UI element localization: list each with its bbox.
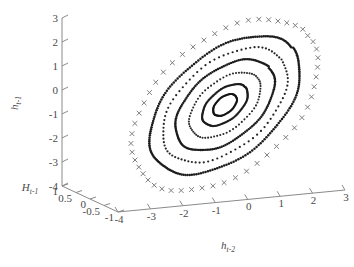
marker-dot — [189, 125, 191, 127]
marker-dot — [164, 92, 167, 95]
x-axis-ticks: -4-3-2-10123 — [114, 185, 349, 225]
marker-dot — [191, 64, 194, 67]
marker-dot — [195, 134, 197, 136]
marker-dot — [239, 38, 242, 41]
marker-dot — [258, 78, 260, 80]
marker-dot — [229, 130, 231, 132]
marker-dot — [222, 43, 225, 46]
marker-dot — [156, 107, 159, 110]
marker-dot — [259, 85, 261, 87]
marker-dot — [221, 165, 224, 168]
marker-dot — [219, 134, 221, 136]
marker-dot — [277, 122, 280, 125]
marker-dot — [220, 44, 223, 47]
marker-dot — [195, 173, 198, 176]
z-axis-label: Ht-1 — [21, 181, 38, 196]
marker-dot — [270, 118, 272, 120]
marker-dot — [184, 159, 186, 161]
marker-dot — [187, 160, 189, 162]
marker-dot — [203, 161, 205, 163]
marker-cross — [137, 165, 141, 169]
marker-dot — [212, 159, 214, 161]
marker-cross — [200, 186, 204, 190]
marker-dot — [191, 174, 194, 177]
marker-dot — [207, 87, 209, 89]
marker-dot — [259, 83, 261, 85]
marker-cross — [235, 21, 239, 25]
marker-dot — [245, 47, 247, 49]
marker-dot — [165, 111, 167, 113]
marker-dot — [188, 174, 191, 177]
marker-dot — [258, 46, 260, 48]
marker-dot — [199, 136, 201, 138]
marker-dot — [256, 134, 258, 136]
phase-portrait-plot: 3210-1-2-3-4ht-110.50-0.5-1Ht-1-4-3-2-10… — [0, 0, 354, 267]
marker-cross — [179, 188, 183, 192]
marker-cross — [213, 32, 217, 36]
marker-dot — [253, 46, 255, 48]
marker-dot — [198, 161, 200, 163]
marker-dot — [209, 61, 211, 63]
marker-dot — [296, 90, 299, 93]
marker-dot — [164, 144, 166, 146]
marker-dot — [234, 95, 236, 97]
marker-dot — [258, 96, 260, 98]
y-tick-label: -2 — [49, 132, 58, 144]
marker-dot — [297, 88, 300, 91]
marker-dot — [169, 85, 172, 88]
marker-cross — [265, 153, 269, 157]
marker-cross — [276, 19, 280, 23]
marker-dot — [190, 112, 192, 114]
marker-dot — [284, 67, 286, 69]
marker-dot — [267, 134, 270, 137]
marker-dot — [222, 133, 224, 135]
z-tick-label: 1 — [53, 185, 59, 197]
marker-dot — [256, 35, 259, 38]
marker-dot — [189, 66, 192, 69]
series-ring-3-dense — [174, 58, 276, 151]
marker-dot — [295, 94, 298, 97]
marker-cross — [170, 61, 174, 65]
marker-dot — [246, 116, 248, 118]
marker-dot — [241, 121, 243, 123]
marker-cross — [316, 56, 320, 60]
marker-dot — [284, 93, 286, 95]
marker-dot — [244, 154, 247, 157]
marker-dot — [204, 54, 207, 57]
marker-dot — [204, 89, 206, 91]
marker-dot — [261, 140, 264, 143]
marker-dot — [230, 151, 232, 153]
marker-dot — [239, 146, 241, 148]
marker-dot — [268, 49, 270, 51]
series-ring-5-dense — [201, 83, 249, 127]
marker-dot — [276, 124, 279, 127]
marker-dot — [274, 126, 277, 129]
x-tick-label: -1 — [212, 204, 221, 216]
marker-dot — [175, 94, 177, 96]
marker-dot — [192, 106, 194, 108]
marker-dot — [255, 75, 257, 77]
marker-dot — [253, 107, 255, 109]
marker-cross — [233, 176, 237, 180]
marker-cross — [222, 181, 226, 185]
marker-dot — [234, 148, 236, 150]
marker-dot — [286, 74, 288, 76]
y-tick-label: 2 — [53, 36, 59, 48]
marker-dot — [282, 116, 285, 119]
marker-dot — [191, 161, 193, 163]
x-tick-label: -3 — [147, 210, 157, 222]
marker-dot — [221, 155, 223, 157]
marker-cross — [191, 45, 195, 49]
marker-dot — [193, 63, 196, 66]
y-tick — [62, 111, 68, 114]
marker-dot — [257, 144, 260, 147]
marker-dot — [232, 72, 234, 74]
y-axis-ticks: 3210-1-2-3-4 — [49, 12, 68, 192]
x-tick-label: 1 — [278, 197, 284, 209]
x-tick-label: -4 — [114, 213, 124, 225]
marker-dot — [216, 135, 218, 137]
marker-dot — [167, 107, 169, 109]
marker-dot — [213, 48, 216, 51]
marker-dot — [216, 80, 218, 82]
marker-dot — [226, 75, 228, 77]
